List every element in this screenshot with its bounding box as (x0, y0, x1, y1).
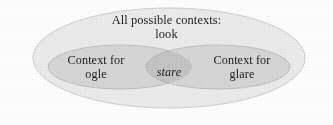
left-set-title: Context for (44, 54, 148, 67)
outer-set-title: All possible contexts: (0, 14, 333, 27)
right-set-title: Context for (190, 54, 294, 67)
intersection-term: stare (140, 66, 198, 79)
right-set-label: Context for glare (190, 54, 294, 81)
right-set-term: glare (190, 68, 294, 81)
left-set-label: Context for ogle (44, 54, 148, 81)
outer-set-label: All possible contexts: look (0, 14, 333, 42)
venn-diagram: All possible contexts: look Context for … (0, 0, 333, 125)
outer-set-term: look (0, 28, 333, 41)
left-set-term: ogle (44, 68, 148, 81)
